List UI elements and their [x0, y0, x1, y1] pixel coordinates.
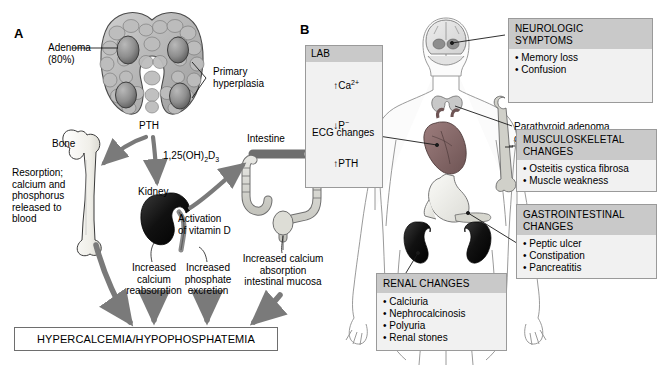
list-item: • Osteitis cystica fibrosa: [523, 163, 650, 175]
label-bone: Bone: [52, 138, 75, 150]
result-box-text: HYPERCALCEMIA/HYPOPHOSPHATEMIA: [37, 333, 255, 345]
list-item: • Muscle weakness: [523, 175, 650, 187]
info-box-musculoskeletal-body: • Osteitis cystica fibrosa • Muscle weak…: [517, 160, 656, 192]
info-box-musculoskeletal: MUSCULOSKELETAL CHANGES • Osteitis cysti…: [516, 129, 657, 192]
result-box-hypercalcemia: HYPERCALCEMIA/HYPOPHOSPHATEMIA: [14, 327, 278, 351]
info-box-gastrointestinal-body: • Peptic ulcer • Constipation • Pancreat…: [517, 235, 656, 280]
stomach-illustration: [424, 174, 491, 223]
info-box-neurologic-title: NEUROLOGIC SYMPTOMS: [509, 19, 652, 49]
callout-ecg-changes: ECG changes: [312, 127, 374, 139]
lab-box-body: ↑Ca2+ ↓P− ↑PTH: [306, 62, 382, 187]
info-box-neurologic: NEUROLOGIC SYMPTOMS • Memory loss • Conf…: [508, 18, 653, 103]
list-item: • Polyuria: [383, 320, 500, 332]
label-resorption: Resorption; calcium and phosphorus relea…: [12, 167, 65, 225]
list-item: • Calciuria: [383, 296, 500, 308]
list-item: • Pancreatitis: [523, 262, 650, 274]
list-item: • Peptic ulcer: [523, 238, 650, 250]
label-increased-calcium-absorption: Increased calcium absorption intestinal …: [231, 253, 335, 288]
lab-row-phosphate: ↓P−: [311, 105, 377, 146]
lab-box-title: LAB: [306, 46, 382, 62]
lab-row-calcium: ↑Ca2+: [311, 64, 377, 105]
label-pth: PTH: [139, 120, 159, 132]
info-box-musculoskeletal-title: MUSCULOSKELETAL CHANGES: [517, 130, 656, 160]
brain-illustration: [426, 20, 466, 65]
info-box-gastrointestinal: GASTROINTESTINAL CHANGES • Peptic ulcer …: [516, 204, 657, 279]
parathyroid-hyperplasia-nodule-3: [170, 83, 191, 109]
parathyroid-adenoma-nodule: [117, 36, 139, 64]
info-box-renal-body: • Calciuria • Nephrocalcinosis • Polyuri…: [377, 293, 506, 350]
panel-b-leader-lines: [359, 35, 533, 296]
arrow-up-icon: ↑: [333, 158, 338, 169]
thyroid-parathyroid-illustration: [72, 13, 206, 115]
info-box-renal: RENAL CHANGES • Calciuria • Nephrocalcin…: [376, 273, 507, 351]
panel-b-letter: B: [300, 22, 310, 37]
info-box-renal-title: RENAL CHANGES: [377, 274, 506, 293]
parathyroid-hyperplasia-nodule-1: [168, 37, 189, 63]
neck-thyroid-illustration: [432, 96, 462, 112]
parathyroid-hyperplasia-nodule-2: [116, 82, 137, 108]
list-item: • Constipation: [523, 250, 650, 262]
list-item: • Memory loss: [515, 52, 646, 64]
label-primary-hyperplasia: Primary hyperplasia: [213, 66, 264, 89]
kidneys-illustration: [404, 222, 491, 263]
label-kidney: Kidney: [138, 186, 169, 198]
info-box-gastrointestinal-title: GASTROINTESTINAL CHANGES: [517, 205, 656, 235]
label-adenoma: Adenoma (80%): [48, 42, 91, 65]
lab-row-pth: ↑PTH: [311, 146, 377, 184]
info-box-neurologic-body: • Memory loss • Confusion: [509, 49, 652, 81]
panel-a-letter: A: [14, 26, 24, 41]
list-item: • Nephrocalcinosis: [383, 308, 500, 320]
figure-root: A Adenoma (80%) Primary hyperplasia PTH …: [0, 0, 661, 365]
label-intestine: Intestine: [247, 133, 285, 145]
arm-bone-illustration: [494, 96, 516, 192]
label-activation-vitamin-d: Activation of vitamin D: [178, 213, 231, 236]
arrow-up-icon: ↑: [333, 80, 338, 91]
heart-illustration: [424, 109, 466, 173]
lab-box: LAB ↑Ca2+ ↓P− ↑PTH: [305, 45, 383, 188]
list-item: • Confusion: [515, 64, 646, 76]
list-item: • Renal stones: [383, 332, 500, 344]
label-vitamin-d-metabolite: 1,25(OH)2D3: [163, 150, 219, 166]
